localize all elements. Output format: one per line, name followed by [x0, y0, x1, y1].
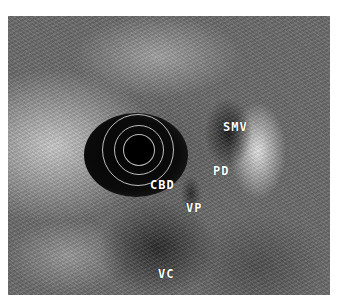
label-pd: PD — [213, 164, 229, 178]
ultrasound-image — [8, 16, 330, 295]
label-cbd: CBD — [150, 178, 175, 192]
label-vc: VC — [158, 267, 174, 281]
label-smv: SMV — [223, 120, 248, 134]
label-vp: VP — [186, 201, 202, 215]
transducer-ring-inner — [123, 134, 155, 166]
